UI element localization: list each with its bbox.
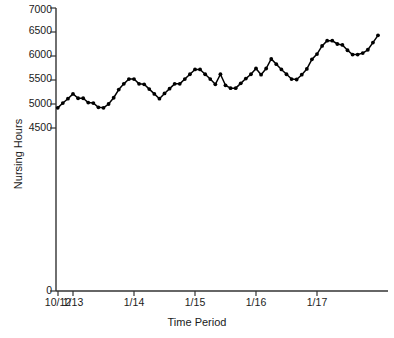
data-point — [86, 101, 90, 105]
data-point — [66, 97, 70, 101]
data-point — [305, 67, 309, 71]
data-point — [173, 82, 177, 86]
data-point — [142, 82, 146, 86]
data-point — [290, 77, 294, 81]
data-series-markers — [56, 33, 380, 109]
data-point — [198, 68, 202, 72]
data-point — [213, 82, 217, 86]
data-point — [254, 67, 258, 71]
data-point — [76, 96, 80, 100]
data-point — [56, 106, 60, 110]
data-point — [315, 52, 319, 56]
data-point — [112, 96, 116, 100]
data-point — [234, 86, 238, 90]
data-point — [361, 51, 365, 55]
axis-lines — [56, 8, 388, 291]
data-point — [102, 106, 106, 110]
x-tick-label-5: 1/16 — [239, 296, 273, 308]
data-point — [285, 72, 289, 76]
data-point — [158, 97, 162, 101]
data-point — [203, 72, 207, 76]
data-point — [376, 33, 380, 37]
data-point — [341, 43, 345, 47]
data-point — [147, 87, 151, 91]
data-point — [320, 44, 324, 48]
data-point — [91, 101, 95, 105]
data-point — [152, 92, 156, 96]
data-point — [259, 73, 263, 77]
data-point — [280, 68, 284, 72]
data-point — [178, 82, 182, 86]
data-point — [310, 57, 314, 61]
data-point — [71, 92, 75, 96]
data-point — [219, 72, 223, 76]
data-point — [229, 86, 233, 90]
data-point — [224, 83, 228, 87]
x-tick-label-4: 1/15 — [178, 296, 212, 308]
data-point — [81, 96, 85, 100]
data-point — [132, 77, 136, 81]
data-series-line — [58, 35, 378, 107]
y-axis-ticks — [50, 8, 56, 291]
data-point — [346, 48, 350, 52]
data-point — [193, 68, 197, 72]
x-tick-label-2: 1/13 — [56, 296, 90, 308]
data-point — [122, 82, 126, 86]
data-point — [107, 102, 111, 106]
data-point — [239, 81, 243, 85]
data-point — [137, 82, 141, 86]
data-point — [117, 88, 121, 92]
data-point — [366, 48, 370, 52]
data-point — [371, 41, 375, 45]
data-point — [351, 53, 355, 57]
data-point — [264, 67, 268, 71]
data-point — [188, 72, 192, 76]
data-point — [274, 62, 278, 66]
x-axis-title: Time Period — [0, 316, 394, 328]
data-point — [325, 39, 329, 43]
data-point — [335, 42, 339, 46]
data-point — [168, 87, 172, 91]
x-tick-label-6: 1/17 — [300, 296, 334, 308]
data-point — [61, 101, 65, 105]
data-point — [295, 78, 299, 82]
data-point — [269, 57, 273, 61]
data-point — [183, 77, 187, 81]
x-tick-label-3: 1/14 — [117, 296, 151, 308]
data-point — [300, 73, 304, 77]
data-point — [249, 72, 253, 76]
data-point — [244, 77, 248, 81]
data-point — [127, 77, 131, 81]
plot-area — [0, 0, 394, 338]
data-point — [163, 92, 167, 96]
data-point — [356, 53, 360, 57]
data-point — [330, 39, 334, 43]
data-point — [208, 77, 212, 81]
data-point — [97, 105, 101, 109]
line-chart: Nursing Hours 7000 6500 6000 5500 5000 4… — [0, 0, 394, 338]
